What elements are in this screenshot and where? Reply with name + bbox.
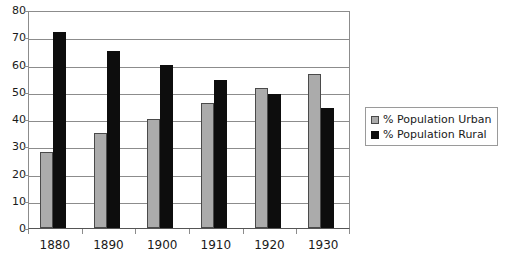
- bar-urban: [201, 103, 214, 228]
- plot-area: [28, 11, 350, 229]
- y-tick-label: 80: [0, 5, 26, 16]
- y-tick-label: 60: [0, 60, 26, 71]
- chart-legend: % Population Urban % Population Rural: [365, 107, 498, 146]
- x-axis: 188018901900191019201930: [28, 238, 350, 258]
- legend-label-rural: % Population Rural: [383, 129, 487, 141]
- x-tick-mark: [349, 229, 350, 234]
- urban-swatch-icon: [371, 116, 379, 124]
- y-axis: 01020304050607080: [0, 0, 26, 261]
- bar-group: [190, 12, 244, 228]
- x-tick-label: 1880: [28, 238, 82, 252]
- x-tick-label: 1920: [243, 238, 297, 252]
- x-tick-mark: [135, 229, 136, 234]
- bars-layer: [29, 12, 349, 228]
- rural-swatch-icon: [371, 131, 379, 139]
- bar-rural: [321, 108, 334, 228]
- bar-group: [136, 12, 190, 228]
- y-tick-label: 10: [0, 196, 26, 207]
- y-tick-label: 20: [0, 169, 26, 180]
- bar-group: [297, 12, 351, 228]
- bar-chart: 01020304050607080 1880189019001910192019…: [0, 0, 507, 261]
- bar-rural: [268, 94, 281, 228]
- bar-rural: [214, 80, 227, 229]
- x-tick-mark: [189, 229, 190, 234]
- bar-rural: [160, 65, 173, 229]
- bar-rural: [107, 51, 120, 228]
- legend-label-urban: % Population Urban: [383, 114, 492, 126]
- bar-rural: [53, 32, 66, 228]
- bar-urban: [308, 74, 321, 228]
- x-tick-label: 1930: [296, 238, 350, 252]
- x-tick-label: 1900: [135, 238, 189, 252]
- x-tick-mark: [28, 229, 29, 234]
- bar-group: [29, 12, 83, 228]
- bar-group: [244, 12, 298, 228]
- bar-urban: [255, 88, 268, 228]
- y-tick-label: 70: [0, 32, 26, 43]
- legend-item-urban: % Population Urban: [371, 112, 497, 127]
- x-axis-ticks: [28, 229, 350, 235]
- x-tick-label: 1910: [189, 238, 243, 252]
- bar-urban: [94, 133, 107, 228]
- bar-urban: [147, 119, 160, 228]
- y-tick-label: 50: [0, 87, 26, 98]
- legend-item-rural: % Population Rural: [371, 127, 497, 142]
- x-tick-mark: [82, 229, 83, 234]
- bar-group: [83, 12, 137, 228]
- y-tick-label: 30: [0, 141, 26, 152]
- y-tick-label: 0: [0, 223, 26, 234]
- x-tick-mark: [296, 229, 297, 234]
- x-tick-mark: [243, 229, 244, 234]
- bar-urban: [40, 152, 53, 228]
- y-tick-label: 40: [0, 114, 26, 125]
- x-tick-label: 1890: [82, 238, 136, 252]
